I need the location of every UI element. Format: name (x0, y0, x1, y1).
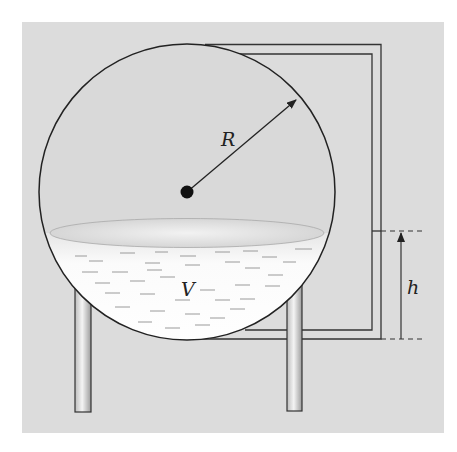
center-point (181, 186, 194, 199)
volume-label: V (181, 278, 197, 300)
liquid-surface (50, 219, 324, 248)
spherical-tank-diagram: R V h (0, 0, 457, 452)
height-label: h (407, 276, 419, 298)
radius-label: R (220, 128, 235, 150)
